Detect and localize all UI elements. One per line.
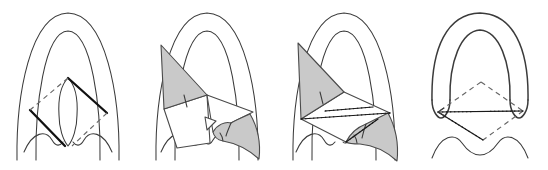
panel-3-flaps-sutured: Flaps sutured in transposed position [274, 0, 411, 170]
uvula-outline [59, 78, 77, 146]
panel-2-canvas [137, 0, 274, 170]
panel-4-canvas [411, 0, 548, 170]
palatal-arch-left-rounded-end [432, 100, 450, 118]
closure-diamond-dashed-upper-left [438, 82, 481, 112]
palatal-arch-outer-curve [432, 13, 528, 100]
panel-4-completed-closure: Completed closure [411, 0, 548, 170]
palatal-arch-outer-curve [17, 13, 119, 160]
closure-diamond-dashed-upper-right [481, 82, 523, 111]
palatal-arch-inner-curve [450, 30, 510, 100]
closure-diamond-dashed-lower-right [483, 111, 523, 140]
tongue-base-wavy-contour-left [296, 134, 335, 152]
surgical-figure-root: Incision design markings [0, 0, 548, 170]
incision-line-solid-lower-left [30, 110, 65, 146]
panel-3-canvas [274, 0, 411, 170]
palatal-arch-inner-curve [36, 31, 100, 160]
tongue-base-wavy-contour [432, 137, 528, 158]
incision-line-dashed-upper-left [30, 78, 68, 110]
panel-1-incision-design: Incision design markings [0, 0, 137, 170]
panel-1-canvas [0, 0, 137, 170]
panel-2-flaps-elevated: Flaps elevated and transposed [137, 0, 274, 170]
incision-line-solid-upper-right [68, 78, 107, 113]
tongue-base-wavy-contour-right [73, 134, 112, 152]
palatal-arch-right-rounded-end [510, 100, 528, 118]
